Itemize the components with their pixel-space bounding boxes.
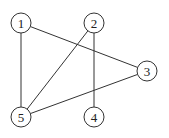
node-label: 2 xyxy=(91,16,98,31)
node-5: 5 xyxy=(11,107,31,127)
node-2: 2 xyxy=(84,13,104,33)
node-1: 1 xyxy=(11,13,31,33)
node-3: 3 xyxy=(137,61,157,81)
node-label: 4 xyxy=(91,110,98,125)
edge-1-3 xyxy=(30,27,137,68)
node-label: 1 xyxy=(18,16,25,31)
node-label: 5 xyxy=(18,110,25,125)
graph-diagram: 12345 xyxy=(0,0,169,138)
nodes-layer: 12345 xyxy=(11,13,157,127)
node-4: 4 xyxy=(84,107,104,127)
edge-2-5 xyxy=(27,31,88,109)
node-label: 3 xyxy=(144,64,151,79)
edge-3-5 xyxy=(30,74,137,113)
edges-layer xyxy=(21,27,138,114)
